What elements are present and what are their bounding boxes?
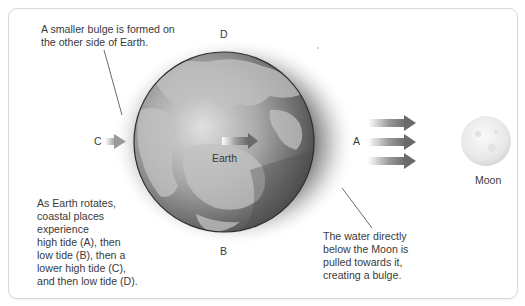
label-a: A — [353, 135, 360, 147]
gravity-arrows — [368, 115, 416, 169]
label-moon: Moon — [475, 174, 501, 186]
annotation-water-bulge: The water directly below the Moon is pul… — [323, 230, 443, 282]
label-earth: Earth — [212, 152, 237, 164]
gravity-arrow-middle — [368, 134, 416, 150]
leader-line-top-left — [104, 50, 122, 115]
annotation-line: coastal places — [37, 210, 167, 223]
annotation-rotation: As Earth rotates, coastal places experie… — [37, 197, 167, 288]
annotation-line: and then low tide (D). — [37, 275, 167, 288]
label-c: C — [94, 135, 102, 147]
annotation-line: A smaller bulge is formed on — [41, 23, 191, 36]
annotation-line: below the Moon is — [323, 243, 443, 256]
gravity-arrow-top — [368, 115, 416, 131]
annotation-line: pulled towards it, — [323, 256, 443, 269]
annotation-line: As Earth rotates, — [37, 197, 167, 210]
annotation-line: low tide (B), then a — [37, 249, 167, 262]
annotation-line: lower high tide (C), — [37, 262, 167, 275]
leader-line-bottom-right — [342, 188, 372, 228]
gravity-arrow-bottom — [368, 153, 416, 169]
annotation-line: experience — [37, 223, 167, 236]
annotation-line: high tide (A), then — [37, 236, 167, 249]
annotation-smaller-bulge: A smaller bulge is formed on the other s… — [41, 23, 191, 49]
annotation-line: the other side of Earth. — [41, 36, 191, 49]
annotation-line: The water directly — [323, 230, 443, 243]
label-b: B — [220, 245, 227, 257]
label-d: D — [220, 28, 228, 40]
moon — [461, 116, 511, 166]
annotation-line: creating a bulge. — [323, 269, 443, 282]
